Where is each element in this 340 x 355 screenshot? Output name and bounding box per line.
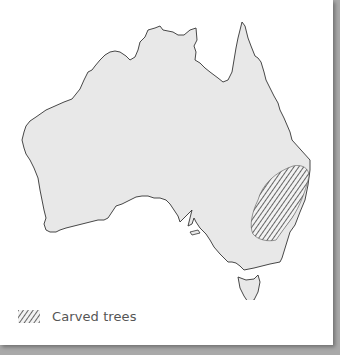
map-card: Carved trees bbox=[0, 0, 333, 345]
kangaroo-island bbox=[190, 230, 200, 235]
australia-map bbox=[0, 0, 333, 300]
hatch-swatch-icon bbox=[18, 310, 40, 323]
legend-label-carved-trees: Carved trees bbox=[52, 309, 137, 324]
tasmania-outline bbox=[238, 275, 260, 300]
map-legend: Carved trees bbox=[18, 309, 137, 324]
